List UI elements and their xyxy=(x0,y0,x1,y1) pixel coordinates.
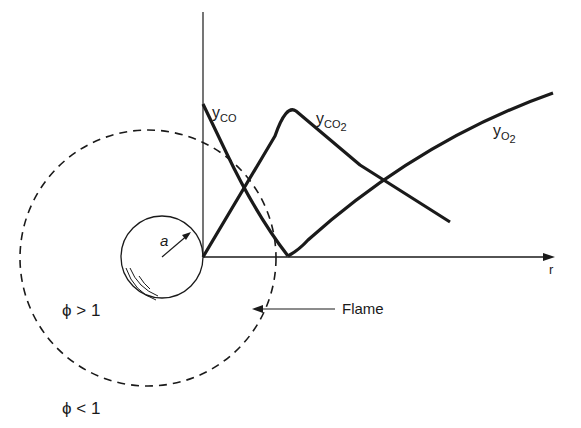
r-axis-arrowhead-icon xyxy=(543,253,555,261)
flame-label: Flame xyxy=(342,300,384,317)
label-y-o2: yO2 xyxy=(493,122,516,145)
droplet-shading-arc xyxy=(130,268,158,296)
flame-surface-dashed-circle xyxy=(20,130,276,386)
region-outer-label: ϕ < 1 xyxy=(62,399,100,418)
label-y-co2: yCO2 xyxy=(316,110,347,133)
region-inner-label: ϕ > 1 xyxy=(62,301,100,320)
droplet-shading-arc xyxy=(139,276,150,289)
r-axis-label: r xyxy=(549,262,554,277)
droplet-combustion-diagram: a r yCO yCO2 yO2 Flame ϕ > 1 ϕ < 1 xyxy=(0,0,581,428)
droplet: a xyxy=(121,216,203,300)
flame-pointer-arrowhead-icon xyxy=(252,305,263,313)
radius-label: a xyxy=(160,232,168,249)
label-y-co: yCO xyxy=(212,104,237,124)
